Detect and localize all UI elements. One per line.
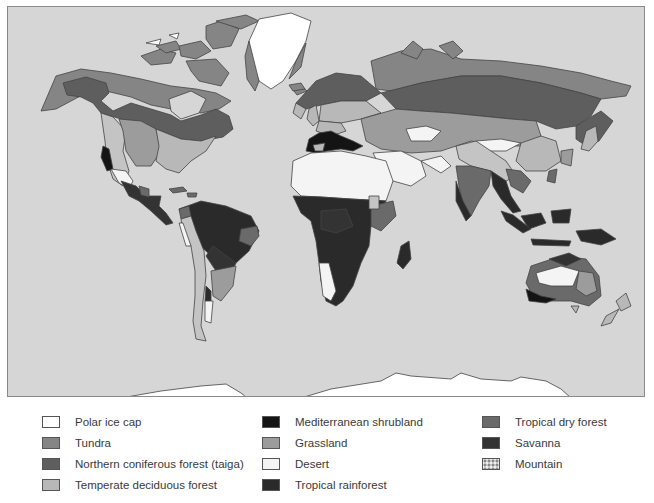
legend-item-tropical-rainforest: Tropical rainforest [262, 477, 387, 493]
legend-item-tundra: Tundra [42, 435, 111, 451]
swatch-tropical-dry-forest [482, 416, 500, 428]
legend-label: Tropical dry forest [515, 416, 607, 428]
swatch-grassland [262, 437, 280, 449]
legend: Polar ice cap Tundra Northern coniferous… [0, 410, 654, 503]
swatch-polar-ice-cap [42, 416, 60, 428]
legend-item-mountain: Mountain [482, 456, 562, 472]
swatch-mediterranean-shrubland [262, 416, 280, 428]
swatch-temperate-deciduous-forest [42, 479, 60, 491]
world-biome-map [7, 6, 645, 397]
legend-label: Mediterranean shrubland [295, 416, 423, 428]
legend-item-savanna: Savanna [482, 435, 560, 451]
legend-label: Tropical rainforest [295, 479, 387, 491]
legend-item-taiga: Northern coniferous forest (taiga) [42, 456, 244, 472]
legend-label: Desert [295, 458, 329, 470]
legend-item-polar-ice-cap: Polar ice cap [42, 414, 141, 430]
legend-item-mediterranean-shrubland: Mediterranean shrubland [262, 414, 423, 430]
legend-item-temperate-deciduous-forest: Temperate deciduous forest [42, 477, 217, 493]
swatch-savanna [482, 437, 500, 449]
legend-item-tropical-dry-forest: Tropical dry forest [482, 414, 607, 430]
legend-label: Tundra [75, 437, 111, 449]
legend-label: Grassland [295, 437, 347, 449]
swatch-mountain [482, 458, 500, 470]
legend-item-desert: Desert [262, 456, 329, 472]
legend-label: Temperate deciduous forest [75, 479, 217, 491]
legend-label: Polar ice cap [75, 416, 141, 428]
swatch-tundra [42, 437, 60, 449]
swatch-tropical-rainforest [262, 479, 280, 491]
legend-label: Savanna [515, 437, 560, 449]
legend-label: Northern coniferous forest (taiga) [75, 458, 244, 470]
map-svg [8, 7, 645, 397]
swatch-taiga [42, 458, 60, 470]
legend-item-grassland: Grassland [262, 435, 347, 451]
swatch-desert [262, 458, 280, 470]
legend-label: Mountain [515, 458, 562, 470]
antarctica [121, 384, 247, 397]
